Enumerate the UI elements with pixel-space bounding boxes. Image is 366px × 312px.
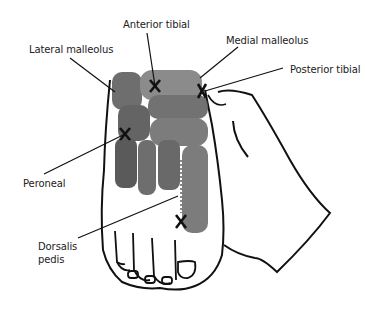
label-dorsalis-pedis-line2: pedis [38,254,64,266]
leader-posterior-tibial [205,68,283,91]
label-peroneal: Peroneal [23,178,65,190]
label-anterior-tibial: Anterior tibial [123,19,190,31]
leader-lateral-malleolus [70,58,115,92]
toes [115,231,195,284]
label-dorsalis-pedis-line1: Dorsalis [38,241,77,253]
label-medial-malleolus: Medial malleolus [226,35,308,47]
leader-peroneal [44,134,125,174]
label-lateral-malleolus: Lateral malleolus [29,44,113,56]
leader-medial-malleolus [200,47,238,78]
bones-shading [112,70,208,233]
leader-dorsalis-pedis [78,196,178,238]
label-posterior-tibial: Posterior tibial [290,64,361,76]
foot-diagram: Anterior tibial Lateral malleolus Medial… [0,0,366,312]
